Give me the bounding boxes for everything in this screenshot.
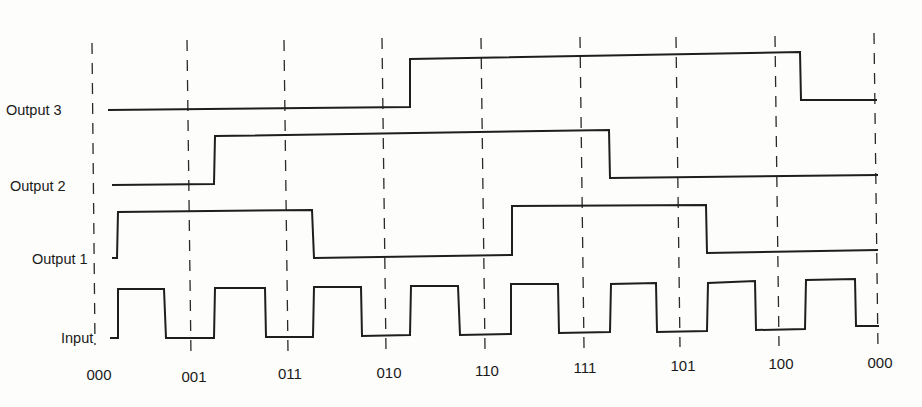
input-label: Input xyxy=(61,330,93,346)
state-label: 000 xyxy=(86,366,111,383)
state-label: 000 xyxy=(867,354,892,371)
output-3-label: Output 3 xyxy=(6,102,62,118)
state-label: 100 xyxy=(768,355,793,372)
state-label: 010 xyxy=(376,364,401,381)
state-label: 110 xyxy=(475,362,499,379)
output-3-waveform: Output 3 xyxy=(6,52,877,118)
output-2-label: Output 2 xyxy=(10,178,66,194)
output-1-label: Output 1 xyxy=(32,251,88,267)
output-2-waveform: Output 2 xyxy=(10,130,878,194)
state-labels: 000 001 011 010 110 111 101 100 000 xyxy=(86,354,892,385)
state-label: 101 xyxy=(670,357,695,374)
state-label: 011 xyxy=(278,365,302,382)
state-label: 111 xyxy=(574,359,597,376)
output-1-waveform: Output 1 xyxy=(32,205,878,267)
state-label: 001 xyxy=(181,368,206,385)
state-gridlines xyxy=(92,33,878,357)
input-waveform: Input xyxy=(61,279,879,346)
timing-diagram: Output 3 Output 2 Output 1 Input 000 001… xyxy=(0,0,922,407)
